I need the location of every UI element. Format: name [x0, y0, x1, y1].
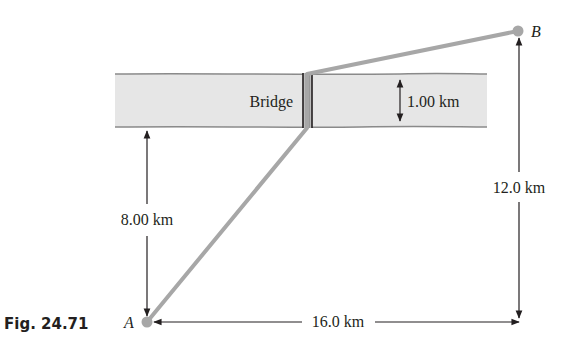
horizontal-total-label: 16.0 km: [312, 313, 365, 330]
figure-caption: Fig. 24.71: [4, 315, 89, 333]
point-b-marker: [513, 26, 524, 37]
vertical-total-label: 12.0 km: [493, 179, 546, 196]
river-width-label: 1.00 km: [407, 93, 460, 110]
point-b-label: B: [531, 23, 541, 40]
point-a-marker: [142, 317, 153, 328]
diagram-canvas: Bridge 1.00 km 8.00 km 12.0 km 16.0 km A…: [0, 0, 572, 352]
point-a-label: A: [123, 314, 134, 331]
river-label: Bridge: [249, 93, 293, 111]
a-to-river-label: 8.00 km: [121, 211, 174, 228]
